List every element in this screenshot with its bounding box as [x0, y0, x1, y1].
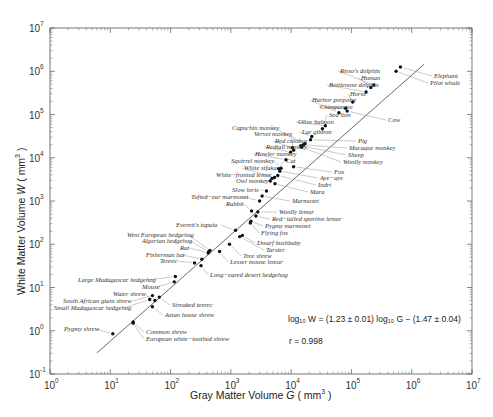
animal-label: South African giant shrew: [63, 297, 132, 304]
animal-label: Woolly lemur: [279, 208, 315, 215]
y-tick-exponent: 0: [40, 323, 44, 330]
data-point: [249, 220, 252, 223]
data-point: [218, 250, 221, 253]
data-point: [276, 174, 279, 177]
animal-label: Lar gibbon: [301, 128, 332, 135]
data-point: [265, 189, 268, 192]
data-point: [199, 264, 202, 267]
animal-label: Long−eared desert hedgehog: [209, 271, 289, 278]
animal-label: Howler monkey: [254, 150, 297, 157]
animal-label: Bottlenose dolphin: [329, 81, 379, 88]
y-tick-label: 10: [29, 196, 41, 207]
x-tick-label: 10: [406, 380, 418, 391]
animal-label: Mouse: [141, 283, 160, 290]
animal-label: European white−toothed shrew: [145, 335, 230, 342]
animal-label: Red−tailed sportive lemur: [271, 215, 342, 222]
animal-label: Sea lion: [329, 111, 351, 118]
data-point: [399, 65, 402, 68]
animal-label: Cow: [388, 116, 401, 123]
data-point: [151, 305, 154, 308]
data-point: [228, 243, 231, 246]
y-tick-label: 10: [29, 66, 41, 77]
animal-label: Flying fox: [260, 229, 288, 236]
data-point: [250, 209, 253, 212]
y-tick-label: 10: [29, 153, 41, 164]
fit-equation: log₁₀ W = (1.23 ± 0.01) log₁₀ G − (1.47 …: [288, 314, 461, 324]
animal-label: Cat: [286, 157, 296, 164]
animal-label: Dwarf bushbaby: [256, 239, 301, 246]
data-point: [394, 70, 397, 73]
data-point: [174, 275, 177, 278]
animal-label: Pygmy marmoset: [264, 222, 311, 229]
data-point: [208, 249, 211, 252]
animal-label: Redtail monkey: [265, 143, 307, 150]
x-axis-title: Gray Matter Volume G ( mm3 ): [190, 388, 332, 401]
y-tick-label: 10: [29, 110, 41, 121]
y-tick-exponent: 7: [40, 20, 44, 27]
data-point: [254, 214, 257, 217]
data-point: [292, 165, 295, 168]
y-tick-label: 10: [29, 23, 41, 34]
animal-label: Rabbit: [225, 200, 244, 207]
animal-label: Woolly monkey: [343, 158, 383, 165]
y-tick-exponent: 1: [40, 280, 44, 287]
y-tick-label: 10: [29, 326, 41, 337]
x-tick-exponent: 0: [55, 377, 59, 384]
animal-label: Macaque monkey: [348, 144, 395, 151]
y-tick-exponent: -1: [40, 366, 46, 373]
y-tick-exponent: 6: [40, 63, 44, 70]
animal-label: Slow loris: [232, 186, 259, 193]
data-point: [310, 135, 313, 138]
x-tick-label: 10: [44, 380, 56, 391]
data-point: [234, 229, 237, 232]
data-point: [148, 298, 151, 301]
animal-label: Sheep: [348, 151, 364, 158]
data-point: [273, 182, 276, 185]
x-tick-exponent: 5: [356, 377, 360, 384]
animal-label: Elephant: [433, 72, 458, 79]
animal-label: Squirrel monkey: [231, 157, 274, 164]
data-point: [260, 194, 263, 197]
data-point: [111, 332, 114, 335]
x-tick-exponent: 6: [417, 377, 421, 384]
animal-label: Tufted−ear marmoset: [191, 193, 249, 200]
x-tick-exponent: 4: [296, 377, 300, 384]
data-point: [258, 199, 261, 202]
correlation-coefficient: r = 0.998: [289, 336, 323, 346]
animal-label: Pilot whale: [429, 79, 460, 86]
animal-label: Streaked tenrec: [172, 301, 213, 308]
animal-label: Pygmy shrew: [63, 325, 100, 332]
animal-label: Risso's dolphin: [339, 67, 381, 74]
animal-label: Small Madagascar hedgehog: [54, 304, 132, 311]
x-tick-label: 10: [345, 380, 357, 391]
y-tick-label: 10: [29, 369, 41, 380]
y-axis-title: White Matter Volume W ( mm3 ): [14, 148, 27, 295]
animal-label: Pig: [357, 137, 368, 144]
data-point: [173, 280, 176, 283]
animal-label: Algerian hedgehog: [141, 237, 193, 244]
animal-label: Rat: [179, 244, 189, 251]
y-tick-label: 10: [29, 283, 41, 294]
animal-label: Harbor porpoise: [311, 96, 357, 103]
animal-label: Vervet monkey: [254, 130, 292, 137]
y-tick-label: 10: [29, 239, 41, 250]
y-tick-exponent: 4: [40, 150, 44, 157]
data-point: [279, 167, 282, 170]
data-point: [153, 299, 156, 302]
animal-label: Owl monkey: [236, 177, 269, 184]
x-tick-label: 10: [466, 380, 478, 391]
animal-label: Marmoset: [291, 197, 319, 204]
x-tick-label: 10: [165, 380, 177, 391]
data-point: [158, 295, 161, 298]
animal-label: Large Madagascar hedgehog: [77, 276, 156, 283]
animal-label: Human: [360, 74, 381, 81]
animal-label: Water shrew: [113, 290, 146, 297]
y-tick-exponent: 5: [40, 107, 44, 114]
background: [0, 0, 493, 417]
y-tick-exponent: 3: [40, 193, 44, 200]
y-tick-exponent: 2: [40, 236, 44, 243]
scatter-chart: 10010110210310410510610710-1100101102103…: [0, 0, 493, 417]
data-point: [273, 176, 276, 179]
animal-label: Indri: [317, 181, 331, 188]
animal-label: Asian house shrew: [164, 311, 215, 318]
